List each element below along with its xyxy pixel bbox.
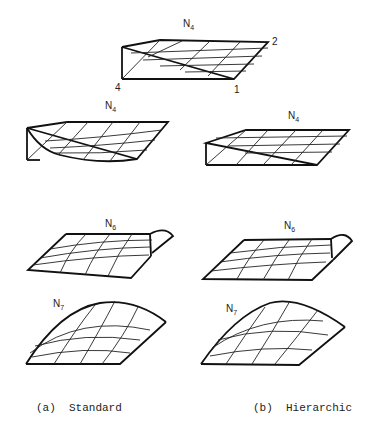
standard-n7-surface xyxy=(26,301,166,364)
corner-4-label: 4 xyxy=(115,82,121,93)
standard-n4-surface xyxy=(27,122,168,161)
hierarchic-n6-label: N6 xyxy=(284,220,295,233)
shape-function-diagram xyxy=(0,0,376,430)
hierarchic-n7-label: N7 xyxy=(226,303,237,316)
standard-n7-label: N7 xyxy=(53,298,64,311)
caption-standard: (a) Standard xyxy=(36,402,122,414)
standard-n4-label: N4 xyxy=(105,100,116,113)
hierarchic-n4-label: N4 xyxy=(288,110,299,123)
hierarchic-n4-surface xyxy=(206,130,349,165)
corner-2-label: 2 xyxy=(272,36,278,47)
hierarchic-n7-surface xyxy=(201,301,345,365)
standard-n6-surface xyxy=(28,230,173,278)
corner-1-label: 1 xyxy=(234,84,240,95)
caption-hierarchic: (b) Hierarchic xyxy=(253,402,352,414)
top-n4-surface xyxy=(122,40,268,79)
standard-n6-label: N6 xyxy=(105,218,116,231)
top-n4-label: N4 xyxy=(183,18,194,31)
hierarchic-n6-surface xyxy=(203,235,352,280)
